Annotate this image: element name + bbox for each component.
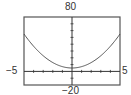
xmax-label: 5 xyxy=(122,66,128,76)
ymin-label: −20 xyxy=(62,86,79,95)
ymax-label: 80 xyxy=(65,2,76,12)
graph-window xyxy=(0,0,131,95)
xmin-label: −5 xyxy=(6,66,17,76)
